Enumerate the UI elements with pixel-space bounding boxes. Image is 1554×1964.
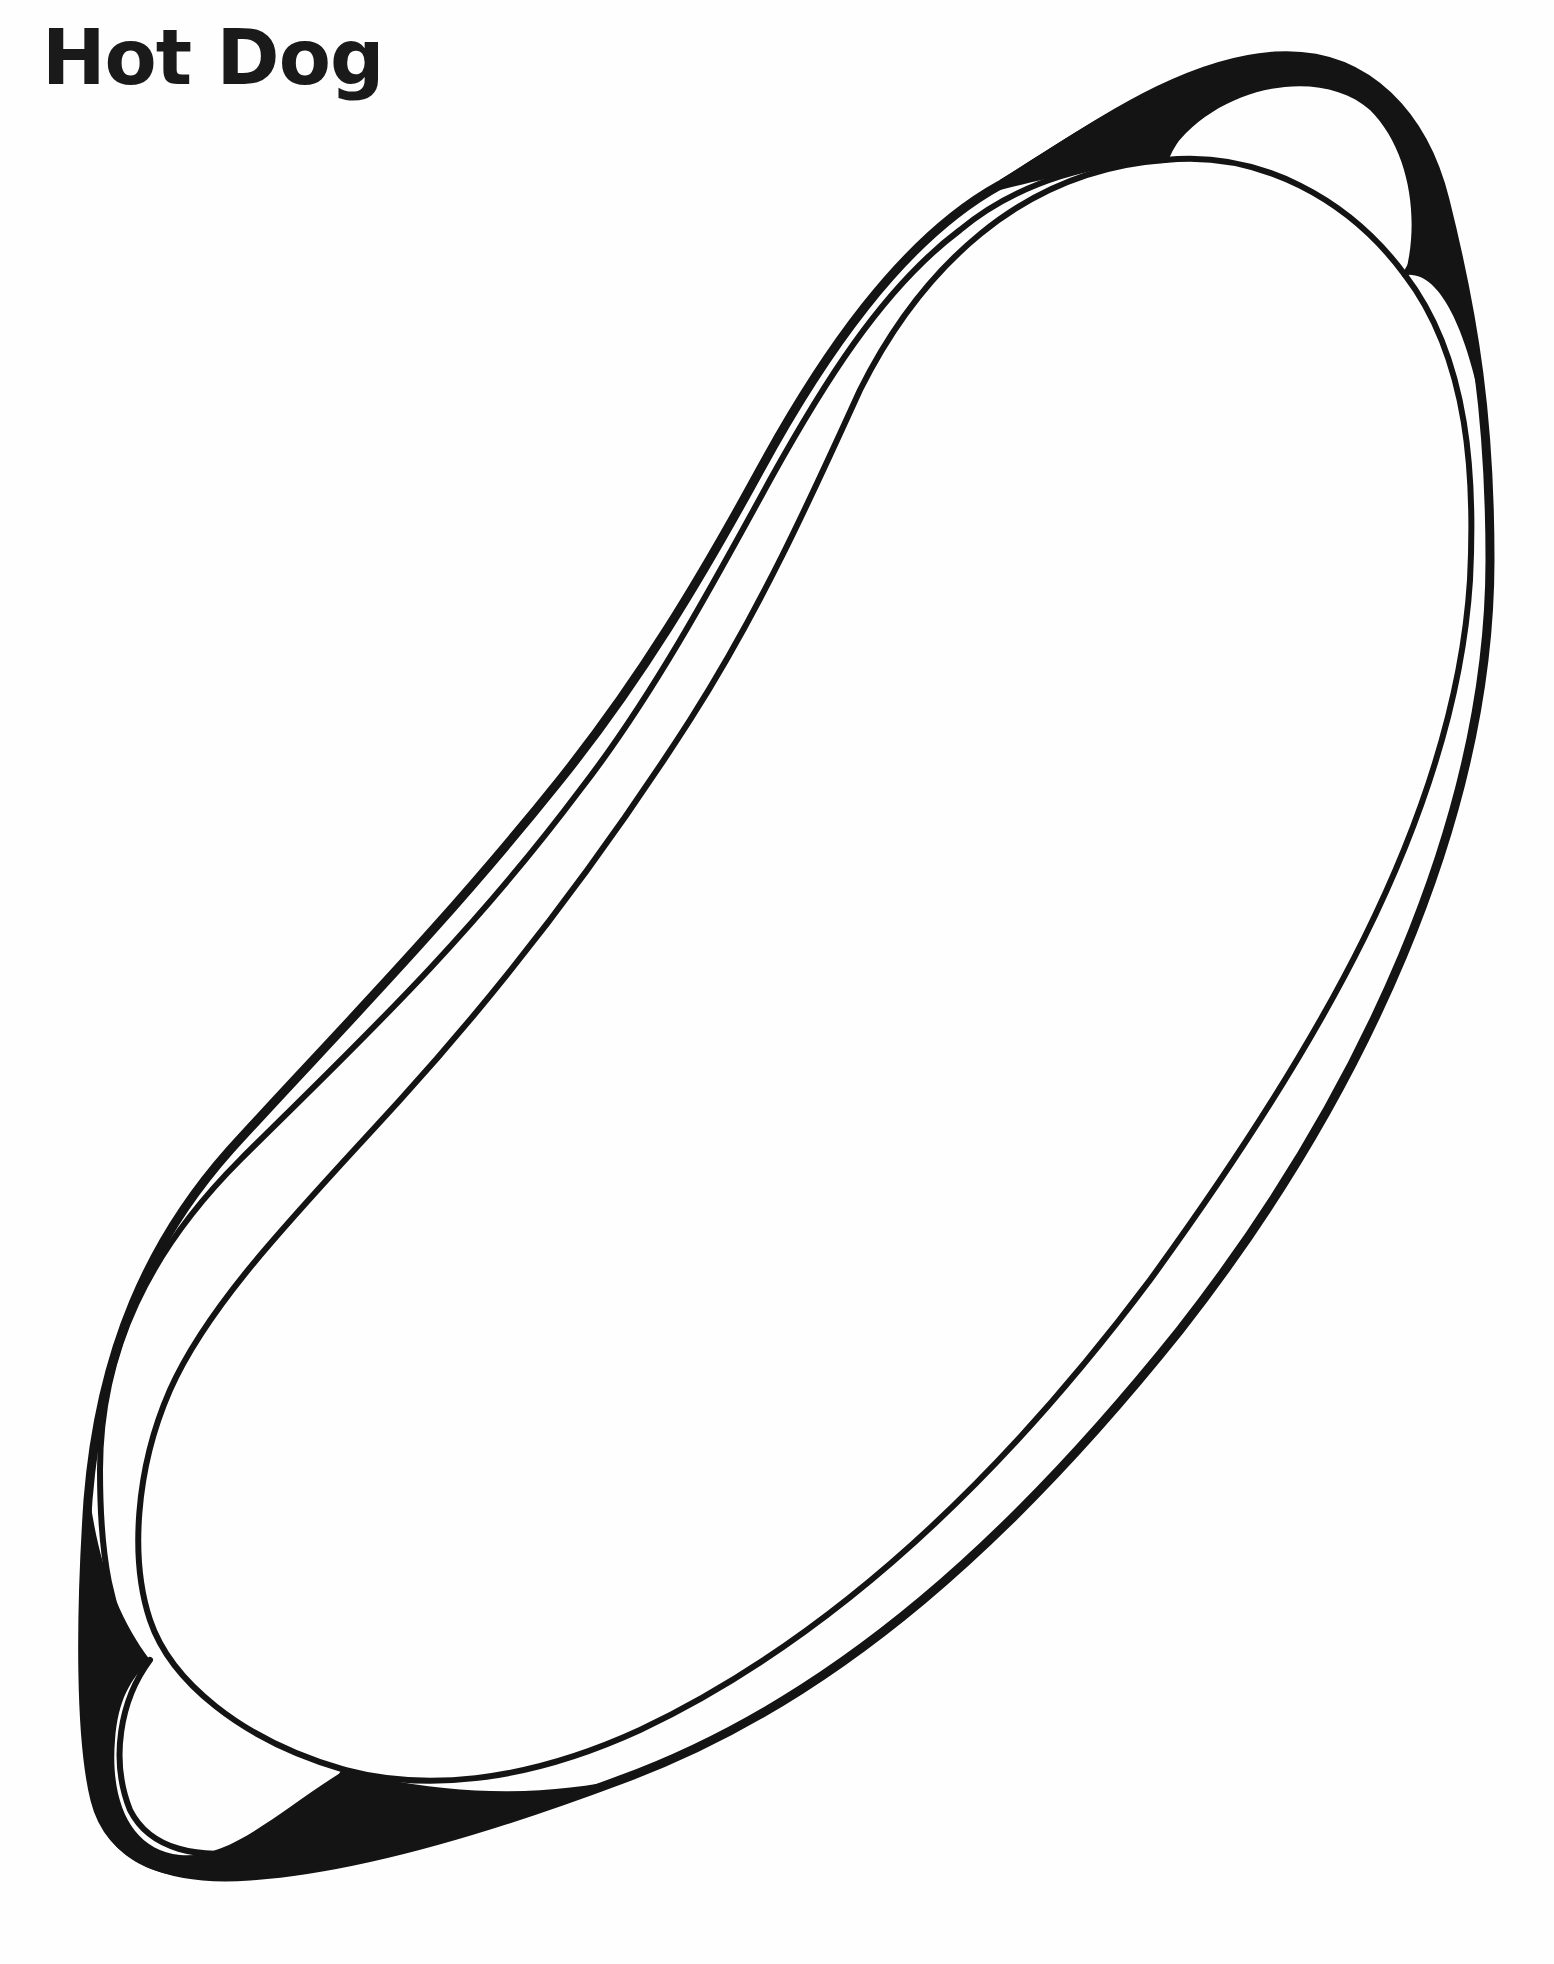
bun-shadow-top [1000,55,1480,400]
bun-shadow-bottom [82,1500,640,1878]
bun-inner-line [100,160,1165,1670]
coloring-page: Hot Dog [0,0,1554,1964]
hot-dog-illustration [0,0,1554,1964]
bun-outline [83,56,1490,1877]
sausage-outline [138,159,1471,1781]
